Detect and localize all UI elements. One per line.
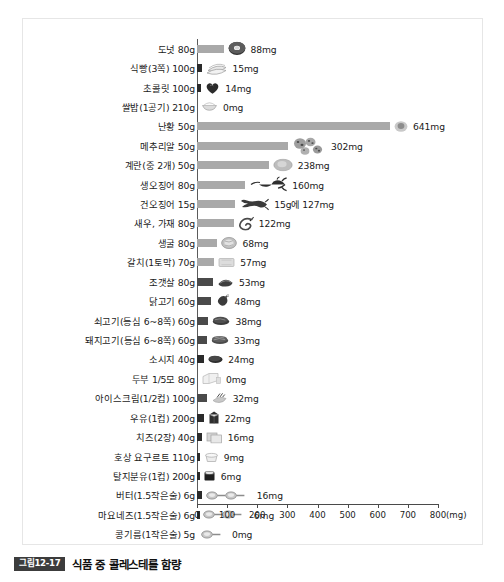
x-axis-tick-label: 400 — [309, 510, 325, 520]
bar-row: 버터(1.5작은술) 6g16mg — [23, 486, 482, 505]
bar — [197, 219, 234, 227]
bar — [197, 122, 390, 130]
bar-value-label: 6mg — [221, 470, 241, 481]
bar-row-label: 마요네즈(1.5작은술) 6g — [98, 508, 195, 522]
bar-value-label: 9mg — [224, 451, 244, 462]
bar-value-label: 32mg — [233, 393, 259, 404]
bar-row: 돼지고기(등심 6~8쪽) 60g33mg — [23, 330, 482, 349]
bar-row-label: 계란(중 2개) 50g — [125, 158, 195, 172]
bar-value-label: 68mg — [242, 237, 268, 248]
bar-value-label: 0mg — [232, 529, 252, 540]
x-axis-tick — [378, 504, 379, 508]
x-axis-tick — [408, 504, 409, 508]
bar-row-label: 메추리알 50g — [140, 139, 195, 153]
bar — [197, 239, 217, 247]
bar-row-label: 돼지고기(등심 6~8쪽) 60g — [85, 333, 195, 347]
x-axis-tick — [318, 504, 319, 508]
bar-value-label: 15g에 127mg — [274, 197, 334, 211]
bar-row: 새우, 가재 80g122mg — [23, 214, 482, 233]
sausage-icon — [208, 351, 223, 368]
bar — [197, 317, 208, 325]
bar-row-label: 조갯살 80g — [149, 275, 195, 289]
bar — [197, 336, 207, 344]
bar-row-label: 난황 50g — [158, 119, 196, 133]
bar-row: 계란(중 2개) 50g238mg — [23, 156, 482, 175]
bar — [197, 472, 200, 480]
bar-row-label: 콩기름(1작은술) 5g — [115, 527, 195, 541]
bar-row-label: 호상 요구르트 110g — [114, 450, 195, 464]
x-axis-tick — [348, 504, 349, 508]
shrimp-icon — [238, 215, 254, 232]
bar-row: 난황 50g641mg — [23, 117, 482, 136]
x-axis-tick — [197, 504, 198, 508]
x-axis-tick — [287, 504, 288, 508]
quail-eggs-icon — [292, 137, 326, 154]
bar-value-label: 48mg — [234, 296, 260, 307]
milk-carton-icon — [208, 409, 220, 426]
bar-row-label: 닭고기 60g — [149, 294, 195, 308]
x-axis-tick-label: 0 — [194, 510, 199, 520]
bar-row-label: 생오징어 80g — [140, 178, 195, 192]
bar — [197, 394, 207, 402]
boiled-egg-icon — [273, 157, 293, 174]
bar-row-label: 새우, 가재 80g — [134, 216, 195, 230]
x-axis-tick-label: 800 — [430, 510, 446, 520]
bar-row-label: 치즈(2장) 40g — [136, 430, 195, 444]
rice-bowl-icon — [201, 98, 218, 115]
bar — [197, 258, 214, 266]
bar — [197, 491, 202, 499]
bar-row-label: 우유(1컵) 200g — [130, 411, 195, 425]
bar-row-label: 초콜릿 100g — [143, 81, 195, 95]
x-axis-tick-label: 300 — [279, 510, 295, 520]
bread-slices-icon — [206, 60, 228, 77]
bar — [197, 200, 235, 208]
bar-value-label: 641mg — [413, 121, 445, 132]
bar — [197, 433, 202, 441]
bar-row: 건오징어 15g15g에 127mg — [23, 194, 482, 213]
oyster-icon — [221, 234, 237, 251]
ice-cream-icon — [211, 390, 228, 407]
bar-row-label: 건오징어 15g — [140, 197, 195, 211]
bar-row-label: 쇠고기(등심 6~8쪽) 60g — [94, 314, 195, 328]
chocolate-heart-icon — [205, 79, 220, 96]
bar-value-label: 15mg — [233, 63, 259, 74]
yogurt-cup-icon — [204, 448, 219, 465]
bar-row: 갈치(1토막) 70g57mg — [23, 253, 482, 272]
bar-row: 도넛 80g88mg — [23, 39, 482, 58]
bar-value-label: 0mg — [223, 101, 243, 112]
bar-row: 콩기름(1작은술) 5g0mg — [23, 525, 482, 544]
squid-icon — [249, 176, 287, 193]
hairtail-fish-icon — [218, 254, 235, 271]
bar — [197, 453, 200, 461]
bar-value-label: 33mg — [234, 334, 260, 345]
bar-row-label: 쌀밥(1공기) 210g — [122, 100, 195, 114]
bar-value-label: 0mg — [226, 373, 246, 384]
bar-row: 아이스크림(1/2컵) 100g32mg — [23, 389, 482, 408]
bar-row: 탈지분유(1컵) 200g6mg — [23, 466, 482, 485]
bar-row: 생오징어 80g160mg — [23, 175, 482, 194]
bar-row: 쌀밥(1공기) 210g0mg — [23, 97, 482, 116]
bar-value-label: 14mg — [225, 82, 251, 93]
bar — [197, 84, 201, 92]
bar-row: 메추리알 50g302mg — [23, 136, 482, 155]
bar-row: 닭고기 60g48mg — [23, 291, 482, 310]
bar-value-label: 88mg — [251, 43, 277, 54]
bar — [197, 161, 269, 169]
bar-row-label: 생굴 80g — [158, 236, 196, 250]
bar-row: 우유(1컵) 200g22mg — [23, 408, 482, 427]
chicken-drumstick-icon — [215, 293, 229, 310]
bar-row: 생굴 80g68mg — [23, 233, 482, 252]
bar-row: 소시지 40g24mg — [23, 350, 482, 369]
bar — [197, 297, 211, 305]
x-axis-tick — [438, 504, 439, 508]
x-axis-tick — [257, 504, 258, 508]
bar-value-label: 38mg — [235, 315, 261, 326]
pork-slices-icon — [211, 331, 229, 348]
x-axis-tick-label: 200 — [249, 510, 265, 520]
bar — [197, 181, 245, 189]
bar-row-label: 도넛 80g — [158, 42, 196, 56]
butter-spoons-icon — [206, 487, 252, 504]
donut-icon — [228, 40, 246, 57]
bar — [197, 355, 204, 363]
bar-value-label: 16mg — [228, 432, 254, 443]
